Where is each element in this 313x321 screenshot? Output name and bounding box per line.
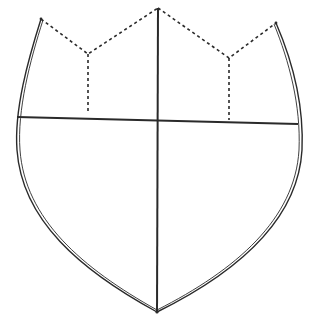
pale-line: [157, 8, 158, 312]
shield-outline: [17, 19, 303, 312]
top-right-corner-point: [275, 22, 278, 25]
top-left-corner-point: [40, 18, 43, 21]
diagram-canvas: [0, 0, 313, 321]
base-point: [155, 310, 158, 313]
dashed-top-right-segment: [158, 8, 276, 58]
shield-left-edge: [17, 19, 157, 312]
shield-right-edge-inner: [157, 24, 299, 310]
shield-diagram: [0, 0, 313, 321]
dashed-top-left-segment: [41, 8, 158, 54]
